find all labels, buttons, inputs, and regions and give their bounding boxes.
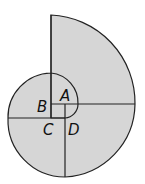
spiral-shape — [8, 15, 135, 177]
label-d: D — [68, 121, 80, 139]
label-c: C — [43, 121, 54, 139]
label-b: B — [37, 98, 47, 116]
label-a: A — [59, 87, 70, 105]
spiral-diagram: A B C D — [0, 0, 145, 184]
